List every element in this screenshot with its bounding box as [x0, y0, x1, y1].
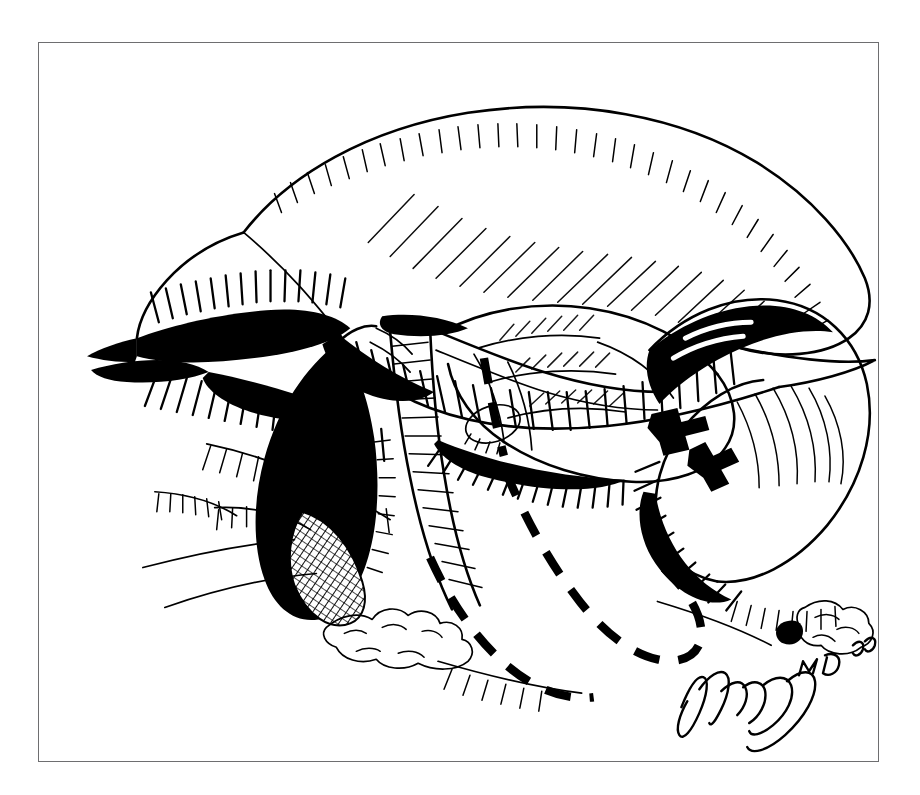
illustration-plate [0, 0, 920, 795]
figure-frame [38, 42, 879, 762]
surgical-illustration-canvas [39, 43, 878, 761]
plate-caption [40, 770, 840, 788]
